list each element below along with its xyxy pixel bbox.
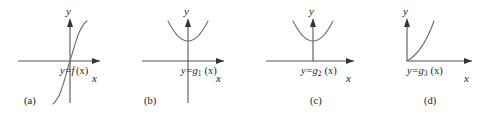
panel-caption-a: (a) [24,96,36,107]
curve-label-b-lhs: y [181,65,186,76]
curve-label-b: y=g1(x) [181,66,217,78]
y-axis-arrowhead-b [185,18,191,27]
y-axis-label-d: y [403,6,408,17]
y-axis-arrowhead-d [404,18,410,27]
curve-label-a: y=f(x) [60,66,88,77]
x-axis-arrowhead-a [92,58,100,64]
curve-label-d: y=g3(x) [407,66,443,78]
graph-panel-d-plot [378,0,504,116]
y-axis-label-b: y [184,6,189,17]
panel-caption-c: (c) [310,96,322,107]
curve-label-c-arg: (x) [323,65,337,76]
curve-label-b-arg: (x) [203,65,217,76]
x-axis-label-a: x [92,73,97,84]
graph-panel-a: x y y=f(x) (a) [0,0,126,116]
graph-panel-a-plot [0,0,126,116]
y-axis-label-a: y [66,6,71,17]
graph-panel-d: x y y=g3(x) (d) [378,0,504,116]
panel-caption-b: (b) [144,96,156,107]
curve-label-d-lhs: y [407,65,412,76]
y-axis-arrowhead-a [67,18,73,27]
curve-label-c-lhs: y [301,65,306,76]
x-axis-label-d: x [464,73,469,84]
graph-panel-b: x y y=g1(x) (b) [126,0,252,116]
curve-label-b-eq: = [186,65,193,76]
x-axis-arrowhead-d [464,58,472,64]
graph-panel-c: x y y=g2(x) (c) [252,0,378,116]
curve-label-a-eq: = [65,65,72,76]
y-axis-label-c: y [309,6,314,17]
x-axis-arrowhead-c [346,58,354,64]
y-axis-arrowhead-c [310,18,316,27]
curve-label-a-lhs: y [60,65,65,76]
x-axis-label-c: x [346,73,351,84]
curve-label-c: y=g2(x) [301,66,337,78]
panel-caption-d: (d) [424,96,436,107]
x-axis-arrowhead-b [216,58,224,64]
curve-g3 [407,21,434,61]
function-graphs-figure: x y y=f(x) (a) x y y=g1(x) (b) [0,0,504,116]
curve-label-a-arg: (x) [75,65,89,76]
curve-label-d-eq: = [412,65,419,76]
curve-label-d-arg: (x) [429,65,443,76]
curve-label-c-eq: = [306,65,313,76]
